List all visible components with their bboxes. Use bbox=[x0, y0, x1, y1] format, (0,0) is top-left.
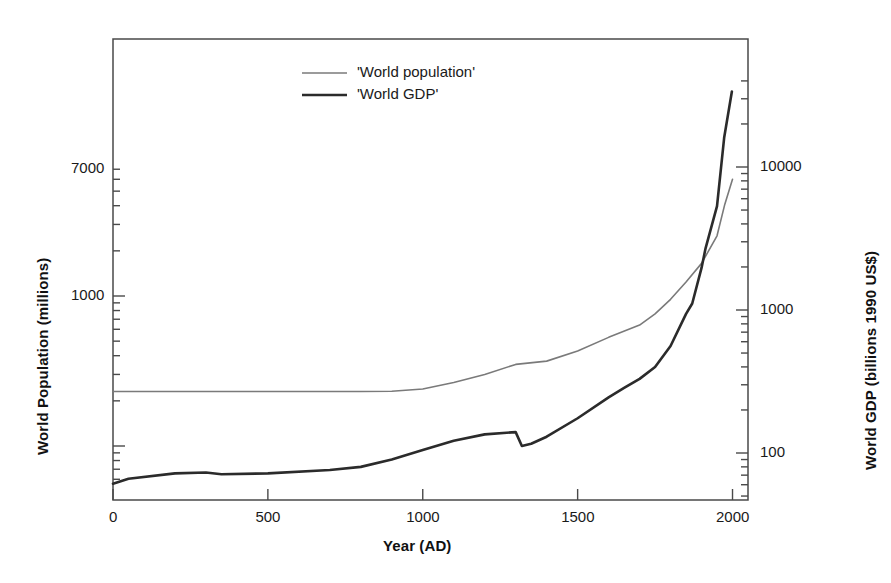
legend-label-world-gdp: 'World GDP' bbox=[357, 85, 438, 102]
chart-figure: World Population (millions) World GDP (b… bbox=[0, 0, 891, 583]
right-axis-ticks bbox=[736, 81, 748, 496]
y-right-tick-label-100: 100 bbox=[760, 443, 785, 460]
legend-swatches bbox=[302, 73, 347, 95]
x-tick-label-2000: 2000 bbox=[716, 508, 749, 525]
y-axis-right-title: World GDP (billions 1990 US$) bbox=[862, 251, 879, 470]
left-axis-ticks bbox=[113, 169, 125, 479]
chart-plot-area bbox=[0, 0, 891, 583]
data-series-layer bbox=[113, 92, 733, 484]
y-right-tick-label-10000: 10000 bbox=[760, 157, 802, 174]
legend-label-world-population: 'World population' bbox=[357, 63, 475, 80]
y-left-tick-label-7000: 7000 bbox=[71, 159, 104, 176]
x-tick-label-1500: 1500 bbox=[561, 508, 594, 525]
axes-frame bbox=[113, 39, 748, 500]
x-tick-label-0: 0 bbox=[109, 508, 117, 525]
bottom-axis-ticks bbox=[113, 489, 733, 500]
x-tick-label-1000: 1000 bbox=[406, 508, 439, 525]
y-axis-left-title: World Population (millions) bbox=[34, 258, 51, 455]
y-left-tick-label-1000: 1000 bbox=[71, 286, 104, 303]
x-axis-title: Year (AD) bbox=[383, 537, 451, 554]
y-right-tick-label-1000: 1000 bbox=[760, 300, 793, 317]
x-tick-label-500: 500 bbox=[255, 508, 280, 525]
